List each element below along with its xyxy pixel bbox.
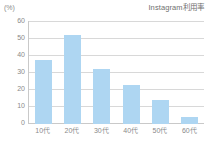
bar-30dai[interactable] <box>93 69 110 124</box>
bars-layer <box>29 21 204 124</box>
bar-slot <box>175 21 204 124</box>
x-axis-tick-60dai: 60代 <box>175 126 204 136</box>
y-axis-unit-label: (%) <box>4 3 15 13</box>
bar-60dai[interactable] <box>181 117 198 124</box>
bar-slot <box>146 21 175 124</box>
plot-area: 60 50 40 30 20 10 0 <box>28 21 204 124</box>
bar-40dai[interactable] <box>123 85 140 124</box>
bar-10dai[interactable] <box>35 60 52 124</box>
instagram-usage-bar-chart: (%) Instagram利用率 60 50 40 30 20 10 0 <box>0 0 208 145</box>
y-axis-tick-20: 20 <box>17 85 25 93</box>
bar-slot <box>117 21 146 124</box>
y-axis-tick-0: 0 <box>21 119 25 127</box>
x-axis-tick-40dai: 40代 <box>116 126 145 136</box>
y-axis-tick-40: 40 <box>17 51 25 59</box>
bar-slot <box>87 21 116 124</box>
y-axis-tick-60: 60 <box>17 17 25 25</box>
chart-title: Instagram利用率 <box>148 3 204 13</box>
bar-20dai[interactable] <box>64 35 81 124</box>
bar-slot <box>29 21 58 124</box>
x-axis-tick-50dai: 50代 <box>145 126 174 136</box>
y-axis-tick-30: 30 <box>17 68 25 76</box>
x-axis-labels: 10代 20代 30代 40代 50代 60代 <box>28 126 204 136</box>
y-axis-tick-50: 50 <box>17 34 25 42</box>
x-axis-tick-20dai: 20代 <box>57 126 86 136</box>
bar-50dai[interactable] <box>152 100 169 124</box>
x-axis-tick-10dai: 10代 <box>28 126 57 136</box>
y-axis-tick-10: 10 <box>17 102 25 110</box>
bar-slot <box>58 21 87 124</box>
x-axis-tick-30dai: 30代 <box>87 126 116 136</box>
